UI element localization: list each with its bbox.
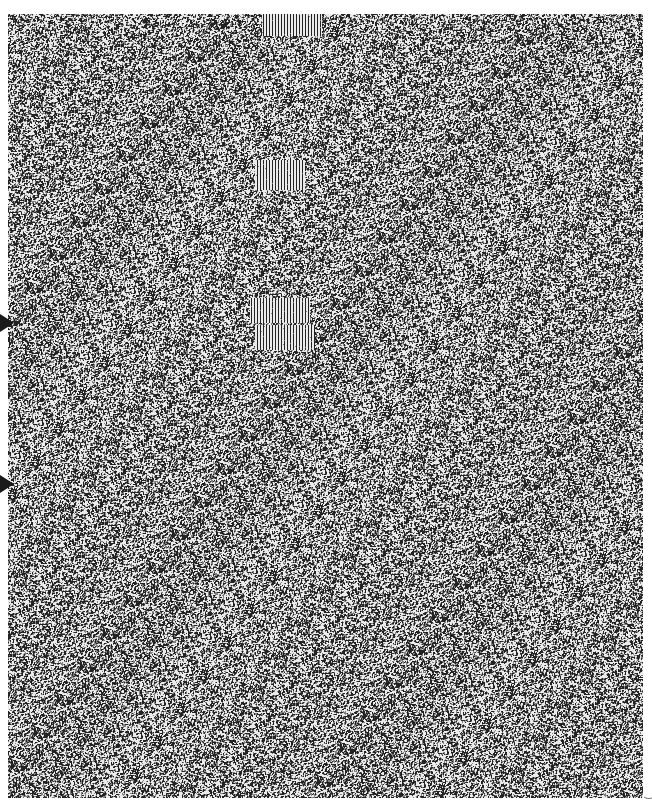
arrow-marker-lower-icon — [0, 475, 14, 493]
arrow-marker-upper-icon — [0, 314, 14, 332]
side-label: ( — [642, 740, 652, 800]
noise-image — [8, 14, 643, 798]
